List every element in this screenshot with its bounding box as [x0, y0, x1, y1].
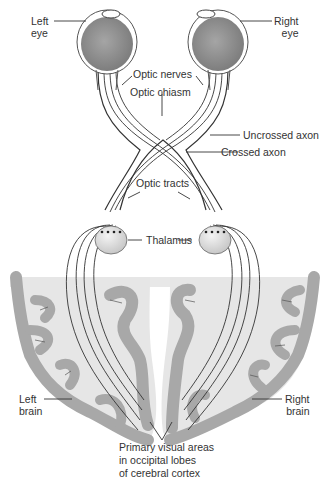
- brain-cross-section: [10, 277, 316, 442]
- optic-tracts-label: Optic tracts: [136, 177, 189, 189]
- left-thalamus: [95, 226, 127, 254]
- uncrossed-axon-label: Uncrossed axon: [243, 129, 319, 141]
- optic-nerves-label: Optic nerves: [133, 68, 192, 80]
- right-eye-label-line1: Right: [274, 15, 299, 27]
- right-brain-label-line2: brain: [285, 405, 310, 417]
- right-brain-label: Right brain: [285, 393, 310, 417]
- primary-visual-areas-label: Primary visual areas in occipital lobes …: [119, 441, 214, 480]
- left-eye-label-line2: eye: [31, 27, 49, 39]
- right-brain-label-line1: Right: [285, 393, 310, 405]
- left-brain-label-line2: brain: [19, 405, 42, 417]
- primary-visual-line3: of cerebral cortex: [119, 467, 214, 480]
- right-eye-label-line2: eye: [274, 27, 299, 39]
- left-eye-label: Left eye: [31, 15, 49, 39]
- right-thalamus: [199, 226, 231, 254]
- crossed-axon-label: Crossed axon: [221, 146, 286, 158]
- thalamus-label: Thalamus: [146, 234, 192, 246]
- left-eye-label-line1: Left: [31, 15, 49, 27]
- optic-chiasm-label: Optic chiasm: [130, 86, 191, 98]
- right-eye-label: Right eye: [274, 15, 299, 39]
- primary-visual-line1: Primary visual areas: [119, 441, 214, 454]
- left-brain-label-line1: Left: [19, 393, 42, 405]
- left-eye: [77, 10, 137, 90]
- left-brain-label: Left brain: [19, 393, 42, 417]
- primary-visual-line2: in occipital lobes: [119, 454, 214, 467]
